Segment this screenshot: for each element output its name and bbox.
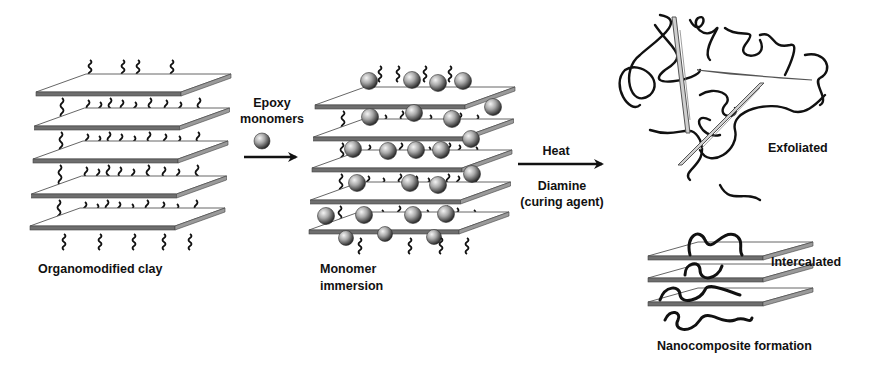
exfoliated-structure [620, 15, 828, 200]
plate-front-edge [30, 226, 175, 230]
polymer-chain [725, 28, 762, 56]
immersion-stack [309, 66, 515, 254]
epoxy-monomer-sphere [361, 73, 378, 90]
plate-front-edge [314, 137, 464, 141]
surfactant-chain [449, 66, 452, 82]
surfactant-chain [189, 234, 192, 250]
epoxy-monomer-sphere [463, 131, 480, 148]
plate-front-edge [33, 159, 178, 163]
epoxy-monomer-sphere [362, 109, 379, 126]
organoclay-label: Organomodified clay [38, 262, 162, 276]
plate-front-edge [312, 168, 462, 172]
surfactant-chain [99, 234, 102, 250]
polymer-chain [760, 34, 794, 75]
plate-front-edge [36, 92, 181, 96]
organoclay-stack [30, 60, 231, 250]
epoxy-monomer-sphere [345, 141, 362, 158]
exfoliated-platelet [697, 70, 812, 80]
plate-front-edge [648, 302, 763, 306]
surfactant-chain [163, 234, 166, 250]
exfoliated-platelet [672, 17, 690, 133]
surfactant-chain [63, 234, 66, 250]
intercalated-structure [648, 234, 813, 329]
epoxy-monomer-sphere [356, 207, 373, 224]
monomer-sphere-icon [254, 133, 270, 149]
epoxy-monomer-sphere [455, 73, 472, 90]
surfactant-chain [379, 66, 382, 82]
epoxy-monomer-sphere [339, 231, 354, 246]
epoxy-label-line2: monomers [240, 112, 304, 126]
surfactant-chain [133, 234, 136, 250]
surfactant-chain [59, 165, 62, 185]
epoxy-monomer-sphere [430, 75, 447, 92]
immersion-label-line1: Monomer [320, 262, 376, 276]
epoxy-monomer-sphere [404, 72, 421, 89]
surfactant-chain [61, 98, 64, 118]
epoxy-monomer-sphere [444, 111, 461, 128]
epoxy-monomer-sphere [408, 142, 425, 159]
epoxy-monomer-sphere [430, 177, 447, 194]
polymer-chain [720, 185, 760, 200]
surfactant-chain [397, 66, 400, 82]
polymer-chain [665, 312, 752, 329]
epoxy-monomer-sphere [406, 105, 423, 122]
epoxy-monomer-sphere [380, 143, 397, 160]
curing-arrow: Heat Diamine (curing agent) [518, 144, 604, 209]
diagram-canvas: Organomodified clay Epoxy monomers Monom… [0, 0, 881, 365]
clay-plate [36, 74, 231, 96]
clay-plate [314, 119, 514, 141]
plate-front-edge [32, 194, 177, 198]
diamine-label: Diamine [538, 179, 587, 193]
epoxy-monomer-sphere [464, 166, 481, 183]
polymer-chain [650, 130, 702, 180]
epoxy-monomer-sphere [438, 206, 455, 223]
epoxy-monomer-sphere [378, 227, 393, 242]
exfoliated-label: Exfoliated [768, 141, 828, 155]
surfactant-chain [409, 238, 412, 254]
nanocomposite-formation-label: Nanocomposite formation [657, 339, 812, 353]
epoxy-monomer-sphere [318, 208, 335, 225]
surfactant-chain [424, 66, 427, 82]
epoxy-monomer-sphere [349, 175, 366, 192]
surfactant-chain [359, 238, 362, 254]
epoxy-monomer-sphere [405, 207, 422, 224]
heat-label: Heat [542, 144, 570, 158]
plate-top-face [315, 87, 515, 105]
plate-front-edge [315, 105, 465, 109]
epoxy-monomer-sphere [402, 175, 419, 192]
plate-front-edge [311, 200, 461, 204]
surfactant-chain [466, 238, 469, 254]
exfoliated-platelet [678, 83, 764, 165]
plate-top-face [36, 74, 231, 92]
epoxy-monomer-sphere [427, 230, 442, 245]
curing-agent-label: (curing agent) [520, 195, 603, 209]
polymer-chain [690, 17, 717, 60]
immersion-label-line2: immersion [320, 279, 383, 293]
polymer-chain [620, 15, 671, 107]
epoxy-label-line1: Epoxy [253, 96, 291, 110]
intercalated-label: Intercalated [771, 255, 841, 269]
epoxy-monomer-arrow: Epoxy monomers [240, 96, 304, 157]
epoxy-monomer-sphere [433, 142, 450, 159]
epoxy-monomer-sphere [485, 99, 502, 116]
plate-front-edge [648, 256, 763, 260]
plate-front-edge [35, 126, 180, 130]
